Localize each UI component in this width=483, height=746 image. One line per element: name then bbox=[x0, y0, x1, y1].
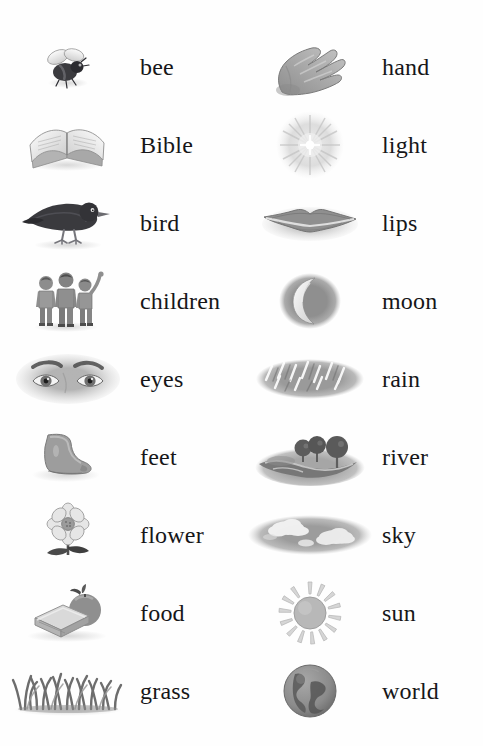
list-item: eyes bbox=[0, 340, 241, 418]
word-label: rain bbox=[377, 367, 420, 391]
sun-icon bbox=[274, 580, 346, 646]
word-label: flower bbox=[135, 523, 204, 547]
hand-icon bbox=[270, 36, 350, 98]
list-item: bee bbox=[0, 28, 241, 106]
sandwich-and-apple-icon bbox=[19, 582, 117, 644]
illustration-cell bbox=[242, 652, 377, 730]
eyes-icon bbox=[13, 351, 123, 407]
word-label: food bbox=[135, 601, 185, 625]
open-book-icon bbox=[25, 118, 111, 172]
sky-with-clouds-icon bbox=[244, 509, 376, 561]
illustration-cell bbox=[0, 184, 135, 262]
list-item: food bbox=[0, 574, 241, 652]
right-column: hand bbox=[242, 0, 483, 746]
bird-icon bbox=[20, 195, 116, 251]
list-item: grass bbox=[0, 652, 241, 730]
word-label: bird bbox=[135, 211, 179, 235]
word-label: feet bbox=[135, 445, 177, 469]
word-label: light bbox=[377, 133, 427, 157]
illustration-cell bbox=[242, 418, 377, 496]
illustration-cell bbox=[0, 418, 135, 496]
list-item: bird bbox=[0, 184, 241, 262]
word-label: moon bbox=[377, 289, 437, 313]
foot-icon bbox=[26, 429, 110, 485]
illustration-cell bbox=[242, 262, 377, 340]
illustration-cell bbox=[0, 28, 135, 106]
illustration-cell bbox=[0, 652, 135, 730]
word-label: river bbox=[377, 445, 428, 469]
list-item: world bbox=[242, 652, 483, 730]
flower-icon bbox=[35, 503, 101, 567]
list-item: children bbox=[0, 262, 241, 340]
rain-icon bbox=[252, 354, 368, 404]
lips-icon bbox=[256, 201, 364, 245]
list-item: light bbox=[242, 106, 483, 184]
light-burst-icon bbox=[268, 109, 352, 181]
left-column: bee bbox=[0, 0, 241, 746]
word-label: world bbox=[377, 679, 439, 703]
word-label: eyes bbox=[135, 367, 183, 391]
illustration-cell bbox=[242, 340, 377, 418]
word-label: grass bbox=[135, 679, 190, 703]
picture-word-list-page: bee bbox=[0, 0, 483, 746]
list-item: lips bbox=[242, 184, 483, 262]
word-label: Bible bbox=[135, 133, 193, 157]
list-item: Bible bbox=[0, 106, 241, 184]
word-label: sky bbox=[377, 523, 416, 547]
list-item: rain bbox=[242, 340, 483, 418]
word-label: bee bbox=[135, 55, 174, 79]
word-label: children bbox=[135, 289, 220, 313]
crescent-moon-icon bbox=[274, 270, 346, 332]
list-item: hand bbox=[242, 28, 483, 106]
river-with-trees-icon bbox=[251, 426, 369, 488]
illustration-cell bbox=[242, 28, 377, 106]
globe-icon bbox=[281, 662, 339, 720]
word-label: lips bbox=[377, 211, 417, 235]
list-item: flower bbox=[0, 496, 241, 574]
illustration-cell bbox=[0, 496, 135, 574]
illustration-cell bbox=[242, 574, 377, 652]
children-icon bbox=[29, 270, 107, 332]
list-item: moon bbox=[242, 262, 483, 340]
illustration-cell bbox=[242, 106, 377, 184]
word-label: sun bbox=[377, 601, 416, 625]
illustration-cell bbox=[0, 340, 135, 418]
illustration-cell bbox=[0, 262, 135, 340]
illustration-cell bbox=[0, 106, 135, 184]
list-item: river bbox=[242, 418, 483, 496]
illustration-cell bbox=[0, 574, 135, 652]
list-item: sky bbox=[242, 496, 483, 574]
illustration-cell bbox=[242, 496, 377, 574]
illustration-cell bbox=[242, 184, 377, 262]
word-label: hand bbox=[377, 55, 429, 79]
bee-icon bbox=[37, 43, 99, 91]
list-item: feet bbox=[0, 418, 241, 496]
list-item: sun bbox=[242, 574, 483, 652]
grass-icon bbox=[7, 664, 129, 718]
